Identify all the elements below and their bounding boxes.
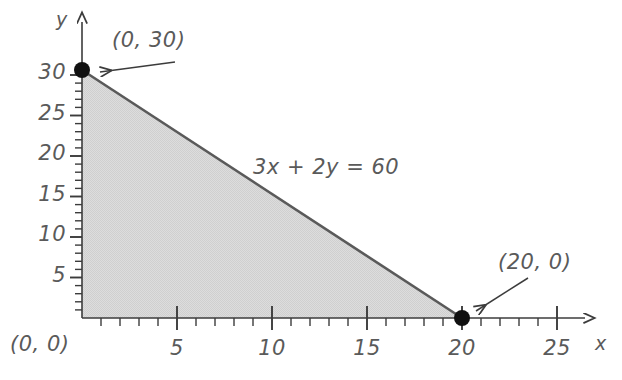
chart-canvas bbox=[0, 0, 622, 380]
origin-label: (0, 0) bbox=[10, 332, 69, 356]
x-axis-label: x bbox=[595, 332, 606, 354]
x-axis-minor-ticks bbox=[101, 318, 538, 326]
marker-point-0-30 bbox=[74, 62, 90, 78]
annotation-arrow-vertex-top bbox=[100, 62, 175, 72]
x-tick-label-15: 15 bbox=[337, 336, 397, 360]
y-tick-label-5: 5 bbox=[20, 263, 66, 287]
equation-label: 3x + 2y = 60 bbox=[253, 155, 399, 179]
linear-programming-feasible-region-chart: y x 5 10 15 20 25 30 5 10 15 20 25 (0, 3… bbox=[0, 0, 622, 380]
y-tick-label-15: 15 bbox=[20, 182, 66, 206]
y-tick-label-30: 30 bbox=[20, 60, 66, 84]
annotation-arrow-vertex-right bbox=[476, 278, 528, 311]
x-tick-label-5: 5 bbox=[147, 336, 207, 360]
x-tick-label-10: 10 bbox=[242, 336, 302, 360]
vertex-top-label: (0, 30) bbox=[112, 28, 185, 52]
y-tick-label-10: 10 bbox=[20, 222, 66, 246]
y-tick-label-20: 20 bbox=[20, 141, 66, 165]
y-tick-label-25: 25 bbox=[20, 101, 66, 125]
y-axis-major-ticks bbox=[70, 75, 82, 278]
vertex-right-label: (20, 0) bbox=[498, 250, 571, 274]
y-axis-label: y bbox=[56, 8, 67, 30]
x-tick-label-20: 20 bbox=[432, 336, 492, 360]
x-tick-label-25: 25 bbox=[527, 336, 587, 360]
marker-point-20-0 bbox=[454, 310, 470, 326]
